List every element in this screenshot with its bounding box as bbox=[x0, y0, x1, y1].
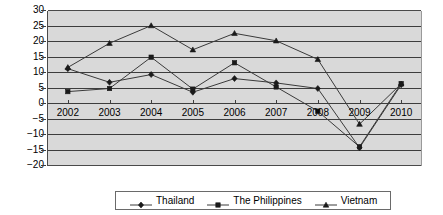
x-axis-tick-mark bbox=[276, 100, 277, 104]
x-axis-tick-mark bbox=[151, 100, 152, 104]
y-axis-tick-mark bbox=[41, 88, 46, 89]
x-axis-tick-mark bbox=[110, 100, 111, 104]
x-axis-tick-label: 2010 bbox=[381, 108, 421, 118]
line-chart: 302520151050−5−10−15−20 2002200320042005… bbox=[0, 0, 443, 215]
y-axis-tick-label: 5 bbox=[2, 83, 44, 93]
y-axis-tick-label: 10 bbox=[2, 67, 44, 77]
y-axis-tick-mark bbox=[41, 57, 46, 58]
y-axis-tick-mark bbox=[41, 10, 46, 11]
y-axis-tick-mark bbox=[41, 41, 46, 42]
y-axis-tick-mark bbox=[41, 119, 46, 120]
data-point bbox=[107, 79, 112, 85]
y-axis-tick-label: −20 bbox=[2, 160, 44, 170]
y-axis-tick-mark bbox=[41, 26, 46, 27]
y-axis: 302520151050−5−10−15−20 bbox=[0, 0, 44, 215]
legend-item-vietnam[interactable]: Vietnam bbox=[314, 196, 378, 206]
data-point bbox=[357, 145, 361, 149]
y-axis-tick-mark bbox=[41, 134, 46, 135]
data-point bbox=[107, 86, 111, 90]
x-axis-tick-label: 2005 bbox=[173, 108, 213, 118]
y-axis-tick-label: 25 bbox=[2, 21, 44, 31]
y-axis-tick-label: −15 bbox=[2, 145, 44, 155]
y-axis-tick-mark bbox=[41, 72, 46, 73]
x-axis-tick-label: 2006 bbox=[215, 108, 255, 118]
x-axis-tick-mark bbox=[235, 100, 236, 104]
x-axis-tick-label: 2002 bbox=[48, 108, 88, 118]
series-layer bbox=[47, 11, 422, 166]
x-axis-tick-mark bbox=[360, 100, 361, 104]
data-point bbox=[148, 23, 154, 28]
x-axis-tick-mark bbox=[68, 100, 69, 104]
legend-item-label: The Philippines bbox=[233, 196, 301, 206]
y-axis-tick-label: −5 bbox=[2, 114, 44, 124]
y-axis-tick-label: 30 bbox=[2, 5, 44, 15]
x-axis-tick-label: 2003 bbox=[90, 108, 130, 118]
triangle-marker-icon bbox=[314, 196, 338, 206]
data-point bbox=[149, 72, 154, 78]
x-axis-tick-label: 2008 bbox=[298, 108, 338, 118]
data-point bbox=[232, 76, 237, 82]
data-point bbox=[149, 55, 153, 59]
legend-item-the-philippines[interactable]: The Philippines bbox=[206, 196, 301, 206]
square-marker-icon bbox=[206, 196, 230, 206]
y-axis-tick-label: 20 bbox=[2, 36, 44, 46]
x-axis-tick-mark bbox=[193, 100, 194, 104]
y-axis-tick-mark bbox=[41, 150, 46, 151]
y-axis-tick-mark bbox=[41, 165, 46, 166]
legend-item-label: Thailand bbox=[156, 196, 194, 206]
legend: ThailandThe PhilippinesVietnam bbox=[115, 191, 391, 210]
legend-item-thailand[interactable]: Thailand bbox=[129, 196, 194, 206]
x-axis-tick-mark bbox=[318, 100, 319, 104]
diamond-marker-icon bbox=[129, 196, 153, 206]
x-axis-tick-label: 2007 bbox=[256, 108, 296, 118]
data-point bbox=[65, 65, 71, 70]
y-axis-tick-label: 0 bbox=[2, 98, 44, 108]
data-point bbox=[191, 87, 195, 91]
x-axis-tick-label: 2004 bbox=[131, 108, 171, 118]
data-point bbox=[274, 85, 278, 89]
y-axis-tick-label: −10 bbox=[2, 129, 44, 139]
data-point bbox=[315, 57, 321, 62]
x-axis-tick-label: 2009 bbox=[340, 108, 380, 118]
x-axis-tick-mark bbox=[401, 100, 402, 104]
data-point bbox=[232, 61, 236, 65]
data-point bbox=[232, 31, 238, 36]
data-point bbox=[66, 89, 70, 93]
legend-item-label: Vietnam bbox=[341, 196, 378, 206]
y-axis-tick-mark bbox=[41, 103, 46, 104]
y-axis-tick-label: 15 bbox=[2, 52, 44, 62]
